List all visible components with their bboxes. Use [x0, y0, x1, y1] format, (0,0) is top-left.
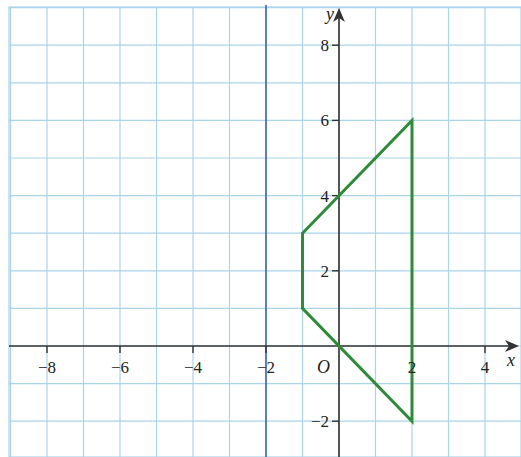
y-tick-label: 8: [321, 36, 330, 55]
x-axis-label: x: [506, 350, 515, 370]
y-tick-label: 6: [321, 111, 330, 130]
y-tick-label: 2: [321, 262, 330, 281]
grid-border: [9, 7, 521, 457]
tick-labels: −8−6−4−224−22468Oxy: [38, 4, 515, 431]
x-tick-label: 4: [481, 358, 490, 377]
axes: [9, 8, 519, 457]
origin-label: O: [317, 357, 330, 377]
x-tick-label: −6: [111, 358, 129, 377]
y-tick-label: 4: [321, 187, 330, 206]
y-tick-label: −2: [311, 412, 329, 431]
x-tick-label: 2: [408, 358, 417, 377]
coordinate-plane: −8−6−4−224−22468Oxy: [0, 0, 521, 457]
x-tick-label: −4: [184, 358, 203, 377]
y-axis-label: y: [324, 4, 334, 24]
grid-lines: [9, 7, 521, 457]
x-tick-label: −8: [38, 358, 56, 377]
x-tick-label: −2: [257, 358, 275, 377]
